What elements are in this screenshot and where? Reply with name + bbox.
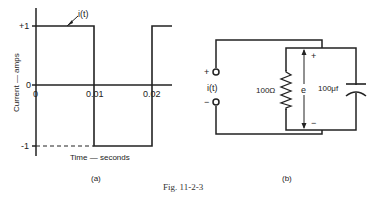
figure-caption: Fig. 11-2-3: [163, 182, 204, 192]
y-tick-minus1: -1: [21, 141, 29, 151]
voltage-plus: +: [311, 51, 316, 61]
x-tick-002: 0.02: [143, 89, 161, 99]
y-tick-plus1: +1: [19, 21, 29, 31]
resistor-label: 100Ω: [256, 86, 275, 95]
source-plus: +: [204, 67, 209, 77]
x-tick-001: 0.01: [86, 89, 104, 99]
source-minus: −: [204, 97, 209, 107]
current-waveform: [36, 26, 172, 146]
panel-a-label: (a): [91, 174, 101, 183]
x-tick-0: 0: [33, 89, 38, 99]
voltage-minus: −: [311, 118, 316, 128]
terminal-minus: [213, 99, 219, 105]
x-axis-label: Time — seconds: [70, 153, 130, 162]
y-tick-0: 0: [26, 80, 31, 90]
terminal-plus: [213, 69, 219, 75]
circuit-diagram: [213, 40, 366, 134]
curve-label: i(t): [78, 9, 89, 19]
y-axis-label: Current — amps: [12, 53, 21, 112]
source-label: i(t): [207, 83, 218, 93]
figure: i(t) +1 0 -1 0 0.01 0.02 Current — amps …: [0, 0, 376, 200]
panel-b-label: (b): [282, 174, 292, 183]
capacitor-label: 100μf: [318, 84, 339, 93]
outer-wire-top: [216, 40, 322, 68]
waveform-chart: [32, 8, 172, 156]
voltage-label: e: [301, 85, 306, 95]
